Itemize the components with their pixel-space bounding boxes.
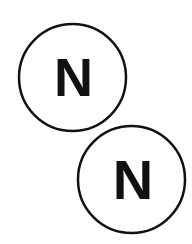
atom-1: N [19, 24, 126, 131]
nitrogen-molecule-diagram: N N [0, 0, 192, 244]
diagram-canvas: N N [0, 0, 192, 244]
atom-1-symbol: N [54, 47, 93, 107]
atom-2-symbol: N [113, 148, 153, 211]
atom-2: N [78, 126, 185, 233]
